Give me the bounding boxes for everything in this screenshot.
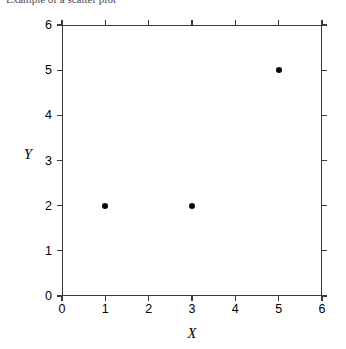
scatter-plot: 0123456 0123456 X Y — [0, 0, 346, 349]
y-tick-left — [57, 70, 62, 71]
y-tick-left — [57, 160, 62, 161]
plot-frame — [62, 25, 322, 296]
y-tick-right — [322, 70, 327, 71]
data-point — [276, 67, 282, 73]
y-tick-left — [57, 115, 62, 116]
y-tick-left — [57, 24, 62, 25]
x-tick-bottom — [278, 296, 279, 301]
y-tick-right — [322, 250, 327, 251]
y-tick-right — [322, 295, 327, 296]
data-point — [189, 203, 195, 209]
y-tick-left — [57, 295, 62, 296]
x-tick-top — [148, 20, 149, 25]
y-axis-title: Y — [24, 146, 32, 163]
y-tick-label: 5 — [38, 63, 52, 77]
x-tick-bottom — [235, 296, 236, 301]
y-tick-label: 1 — [38, 244, 52, 258]
x-tick-label: 4 — [232, 302, 239, 316]
y-tick-label: 6 — [38, 18, 52, 32]
x-tick-label: 6 — [319, 302, 326, 316]
x-tick-top — [191, 20, 192, 25]
x-tick-bottom — [61, 296, 62, 301]
data-point — [102, 203, 108, 209]
y-tick-label: 4 — [38, 108, 52, 122]
y-tick-left — [57, 205, 62, 206]
y-tick-left — [57, 250, 62, 251]
y-tick-label: 2 — [38, 199, 52, 213]
y-tick-right — [322, 160, 327, 161]
x-axis-title: X — [188, 325, 197, 342]
x-tick-top — [105, 20, 106, 25]
x-tick-bottom — [191, 296, 192, 301]
y-tick-right — [322, 205, 327, 206]
y-tick-right — [322, 115, 327, 116]
x-tick-label: 2 — [145, 302, 152, 316]
y-tick-right — [322, 24, 327, 25]
x-tick-label: 1 — [102, 302, 109, 316]
x-tick-label: 3 — [189, 302, 196, 316]
y-tick-label: 0 — [38, 289, 52, 303]
x-tick-bottom — [148, 296, 149, 301]
x-tick-label: 0 — [59, 302, 66, 316]
x-tick-bottom — [105, 296, 106, 301]
x-tick-bottom — [321, 296, 322, 301]
x-tick-label: 5 — [275, 302, 282, 316]
x-tick-top — [235, 20, 236, 25]
y-tick-label: 3 — [38, 154, 52, 168]
x-tick-top — [278, 20, 279, 25]
